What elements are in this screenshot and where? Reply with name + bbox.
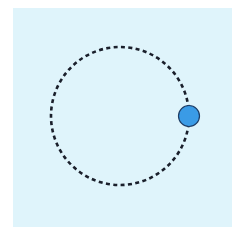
dashed-orbit-path <box>51 47 189 185</box>
orbiting-ball <box>179 106 200 127</box>
orbit-diagram <box>0 0 246 239</box>
